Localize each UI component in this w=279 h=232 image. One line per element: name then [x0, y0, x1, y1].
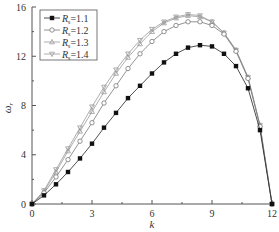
marker-filled-square [102, 125, 106, 129]
legend-label-value: =1.2 [70, 25, 88, 36]
marker-filled-square [210, 44, 214, 48]
x-tick-label: 0 [30, 208, 35, 219]
y-tick-label: 8 [21, 100, 26, 111]
series-line [32, 45, 272, 204]
marker-filled-square [198, 43, 202, 47]
marker-open-circle [210, 23, 214, 27]
marker-filled-square [174, 52, 178, 56]
marker-filled-square [186, 45, 190, 49]
legend-label-main: R [61, 49, 68, 60]
marker-filled-square [54, 182, 58, 186]
marker-open-circle [174, 23, 178, 27]
x-tick-label: 3 [90, 208, 95, 219]
marker-filled-square [246, 86, 250, 90]
marker-filled-square [258, 128, 262, 132]
legend-label: Rs=1.2 [61, 25, 89, 37]
marker-filled-square [270, 202, 274, 206]
legend-label-value: =1.3 [70, 37, 88, 48]
legend: Rs=1.1Rs=1.2Rs=1.3Rs=1.4 [40, 10, 97, 61]
y-tick-label: 4 [21, 149, 26, 160]
marker-open-circle [234, 49, 238, 53]
marker-open-circle [102, 101, 106, 105]
marker-filled-square [50, 16, 54, 20]
marker-filled-square [42, 193, 46, 197]
x-axis-label: k [150, 218, 156, 230]
legend-label-main: R [61, 25, 68, 36]
marker-filled-square [114, 111, 118, 115]
marker-filled-square [162, 60, 166, 64]
legend-label-value: =1.4 [70, 49, 88, 60]
marker-filled-square [222, 52, 226, 56]
legend-label: Rs=1.1 [61, 13, 89, 25]
line-chart: 0369120481216kωr Rs=1.1Rs=1.2Rs=1.3Rs=1.… [0, 0, 279, 232]
marker-filled-square [126, 96, 130, 100]
marker-filled-square [66, 170, 70, 174]
marker-filled-square [90, 141, 94, 145]
legend-label: Rs=1.4 [61, 49, 89, 61]
marker-open-circle [50, 28, 54, 32]
marker-filled-square [138, 84, 142, 88]
marker-open-circle [126, 66, 130, 70]
y-tick-label: 12 [16, 51, 26, 62]
marker-open-circle [66, 157, 70, 161]
legend-label: Rs=1.3 [61, 37, 89, 49]
series-Rs=1.1 [30, 43, 274, 206]
y-tick-label: 16 [16, 2, 26, 13]
marker-open-circle [138, 52, 142, 56]
marker-open-circle [90, 121, 94, 125]
legend-label-main: R [61, 13, 68, 24]
x-tick-label: 9 [210, 208, 215, 219]
marker-open-circle [246, 76, 250, 80]
marker-open-circle [78, 139, 82, 143]
marker-filled-square [78, 156, 82, 160]
marker-filled-square [150, 71, 154, 75]
x-tick-label: 12 [267, 208, 277, 219]
y-axis-label: ωr [1, 102, 15, 113]
marker-open-circle [150, 39, 154, 43]
marker-open-circle [162, 29, 166, 33]
y-tick-label: 0 [21, 199, 26, 210]
marker-open-circle [186, 20, 190, 24]
legend-label-value: =1.1 [70, 13, 88, 24]
marker-open-circle [114, 84, 118, 88]
marker-open-circle [222, 32, 226, 36]
marker-open-circle [54, 175, 58, 179]
marker-open-circle [198, 20, 202, 24]
marker-filled-square [234, 64, 238, 68]
marker-filled-square [30, 202, 34, 206]
legend-label-main: R [61, 37, 68, 48]
y-axis-label-subscript: r [7, 102, 15, 105]
